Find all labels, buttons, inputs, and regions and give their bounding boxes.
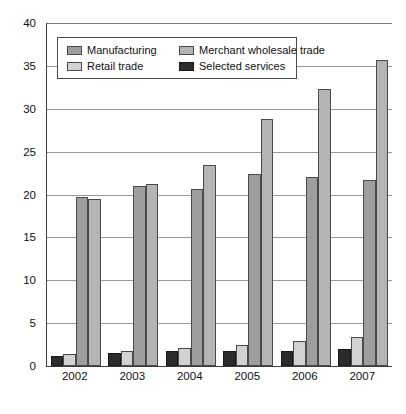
bar-2006-retail-trade: [293, 341, 306, 366]
bar-group-2007: [335, 23, 393, 366]
y-axis-labels: 40 35 30 25 20 15 10 5 0: [0, 23, 40, 366]
y-tick-25: 25: [23, 146, 36, 158]
y-tick-40: 40: [23, 17, 36, 29]
bar-2005-selected-services: [223, 351, 236, 366]
bar-2007-manufacturing: [363, 180, 376, 366]
bar-2002-manufacturing: [76, 197, 89, 366]
legend-item-selected-services: Selected services: [179, 60, 299, 72]
bar-2006-manufacturing: [306, 177, 319, 367]
chart-legend: Manufacturing Merchant wholesale trade R…: [57, 37, 297, 79]
bar-2007-merchant-wholesale: [376, 60, 389, 366]
bar-2003-merchant-wholesale: [146, 184, 159, 366]
legend-item-retail-trade: Retail trade: [67, 60, 179, 72]
legend-label-selected-services: Selected services: [199, 60, 285, 72]
x-tick-2003: 2003: [104, 370, 162, 382]
bar-2004-manufacturing: [191, 189, 204, 366]
y-tick-15: 15: [23, 231, 36, 243]
bar-2004-merchant-wholesale: [203, 165, 216, 367]
legend-label-retail-trade: Retail trade: [87, 60, 143, 72]
x-tick-2006: 2006: [276, 370, 334, 382]
bar-2003-manufacturing: [133, 186, 146, 366]
x-tick-2002: 2002: [46, 370, 104, 382]
bar-2002-retail-trade: [63, 354, 76, 366]
legend-swatch-retail-trade: [67, 62, 82, 71]
bar-2006-merchant-wholesale: [318, 89, 331, 366]
legend-label-manufacturing: Manufacturing: [87, 44, 157, 56]
x-tick-2004: 2004: [161, 370, 219, 382]
legend-swatch-manufacturing: [67, 46, 82, 55]
bar-2007-selected-services: [338, 349, 351, 366]
bar-2005-manufacturing: [248, 174, 261, 366]
y-tick-20: 20: [23, 189, 36, 201]
legend-item-merchant-wholesale: Merchant wholesale trade: [179, 44, 299, 56]
y-tick-5: 5: [30, 317, 36, 329]
legend-swatch-selected-services: [179, 62, 194, 71]
x-axis-labels: 2002 2003 2004 2005 2006 2007: [46, 370, 391, 382]
bar-2003-selected-services: [108, 353, 121, 366]
bar-2007-retail-trade: [351, 337, 364, 366]
legend-item-manufacturing: Manufacturing: [67, 44, 179, 56]
bar-2004-retail-trade: [178, 348, 191, 366]
bar-2004-selected-services: [166, 351, 179, 366]
bar-2005-retail-trade: [236, 345, 249, 366]
bar-2006-selected-services: [281, 351, 294, 366]
bar-2002-selected-services: [51, 356, 64, 366]
bar-chart: 40 35 30 25 20 15 10 5 0: [0, 0, 406, 414]
bar-2005-merchant-wholesale: [261, 119, 274, 366]
bar-2002-merchant-wholesale: [88, 199, 101, 366]
x-tick-2005: 2005: [219, 370, 277, 382]
legend-label-merchant-wholesale: Merchant wholesale trade: [199, 44, 325, 56]
y-tick-0: 0: [30, 360, 36, 372]
y-tick-35: 35: [23, 60, 36, 72]
bar-2003-retail-trade: [121, 351, 134, 366]
x-tick-2007: 2007: [334, 370, 392, 382]
legend-swatch-merchant-wholesale: [179, 46, 194, 55]
y-tick-30: 30: [23, 103, 36, 115]
y-tick-10: 10: [23, 274, 36, 286]
